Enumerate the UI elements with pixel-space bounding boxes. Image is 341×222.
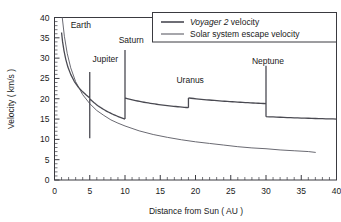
annotation-uranus: Uranus <box>176 75 203 85</box>
x-axis-tick-labels: 0510152025303540 <box>52 186 341 196</box>
x-tick-label: 35 <box>297 186 307 196</box>
y-axis-tick-labels: 0510152025303540 <box>40 13 50 186</box>
legend: Voyager 2 velocity Solar system escape v… <box>153 13 337 43</box>
annotation-jupiter: Jupiter <box>93 54 119 64</box>
y-tick-label: 25 <box>40 73 50 83</box>
annotation-earth: Earth <box>71 20 92 30</box>
annotation-neptune: Neptune <box>252 56 284 66</box>
x-tick-label: 20 <box>191 186 201 196</box>
y-tick-label: 10 <box>40 134 50 144</box>
y-tick-label: 0 <box>45 175 50 185</box>
x-axis-title: Distance from Sun ( AU ) <box>149 206 243 216</box>
annotation-saturn: Saturn <box>119 35 144 45</box>
x-tick-label: 15 <box>156 186 166 196</box>
y-axis-title: Velocity ( km/s ) <box>6 69 16 129</box>
x-tick-label: 0 <box>52 186 57 196</box>
y-tick-label: 35 <box>40 33 50 43</box>
x-tick-label: 5 <box>87 186 92 196</box>
legend-label-voyager: Voyager 2 velocity <box>190 17 260 27</box>
legend-label-escape: Solar system escape velocity <box>190 29 300 39</box>
x-tick-label: 25 <box>226 186 236 196</box>
y-tick-label: 40 <box>40 13 50 23</box>
chart-container: 0510152025303540 0510152025303540 Veloci… <box>0 0 341 222</box>
y-tick-label: 15 <box>40 114 50 124</box>
x-tick-label: 40 <box>332 186 341 196</box>
y-tick-label: 30 <box>40 53 50 63</box>
voyager-velocity-chart: 0510152025303540 0510152025303540 Veloci… <box>0 0 341 222</box>
y-tick-label: 5 <box>45 155 50 165</box>
x-tick-label: 10 <box>120 186 130 196</box>
x-tick-label: 30 <box>261 186 271 196</box>
y-tick-label: 20 <box>40 94 50 104</box>
